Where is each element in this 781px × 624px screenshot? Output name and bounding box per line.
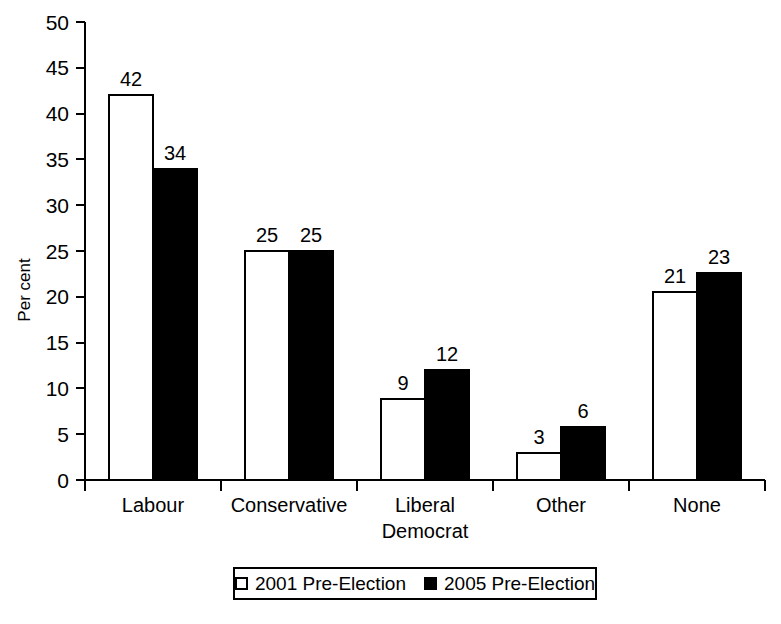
legend-label-2005: 2005 Pre-Election <box>444 574 595 593</box>
bar <box>517 453 561 480</box>
bar-value-label: 42 <box>120 68 142 90</box>
bars-group <box>109 95 741 480</box>
bar-value-label: 6 <box>577 400 588 422</box>
category-label: Other <box>536 494 586 516</box>
bar-value-label: 3 <box>533 426 544 448</box>
y-axis-title: Per cent <box>15 258 34 322</box>
bar-value-label: 9 <box>397 372 408 394</box>
bar <box>653 292 697 480</box>
bar-value-label: 34 <box>164 142 186 164</box>
x-axis-ticks <box>85 480 765 491</box>
y-tick-label: 5 <box>57 423 69 446</box>
legend-item-2001: 2001 Pre-Election <box>235 574 406 593</box>
category-label: Democrat <box>382 520 469 542</box>
category-label: Labour <box>122 494 185 516</box>
category-label: None <box>673 494 721 516</box>
y-tick-label: 40 <box>46 102 69 125</box>
category-label: Conservative <box>231 494 348 516</box>
y-tick-label: 0 <box>57 469 69 492</box>
bar <box>381 399 425 480</box>
chart-legend: 2001 Pre-Election 2005 Pre-Election <box>233 567 597 600</box>
y-tick-label: 25 <box>46 240 69 263</box>
bar <box>425 370 469 480</box>
y-tick-label: 35 <box>46 148 69 171</box>
bar <box>109 95 153 480</box>
legend-item-2005: 2005 Pre-Election <box>424 574 595 593</box>
y-tick-label: 50 <box>46 11 69 34</box>
category-label: Liberal <box>395 494 455 516</box>
chart-canvas: 05101520253035404550 42342525912362123 L… <box>0 0 781 560</box>
y-tick-label: 20 <box>46 285 69 308</box>
bar <box>289 251 333 480</box>
bar-chart-figure: 05101520253035404550 42342525912362123 L… <box>0 0 781 624</box>
y-tick-label: 15 <box>46 331 69 354</box>
bar-value-label: 25 <box>256 224 278 246</box>
y-tick-label: 10 <box>46 377 69 400</box>
y-tick-label: 45 <box>46 56 69 79</box>
bar <box>561 427 605 480</box>
bar-value-label: 12 <box>436 343 458 365</box>
y-axis-ticks: 05101520253035404550 <box>46 11 85 492</box>
bar <box>153 169 197 480</box>
bar <box>697 273 741 480</box>
legend-swatch-filled-icon <box>424 577 437 590</box>
category-labels: LabourConservativeLiberalDemocratOtherNo… <box>122 494 721 542</box>
legend-swatch-open-icon <box>235 577 248 590</box>
bar-value-label: 23 <box>708 246 730 268</box>
legend-label-2001: 2001 Pre-Election <box>255 574 406 593</box>
bar-value-label: 21 <box>664 265 686 287</box>
y-tick-label: 30 <box>46 194 69 217</box>
bar <box>245 251 289 480</box>
bar-value-label: 25 <box>300 224 322 246</box>
